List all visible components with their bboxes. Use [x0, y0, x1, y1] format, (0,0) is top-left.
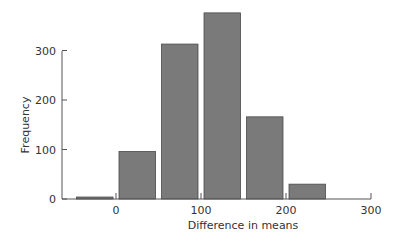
y-axis-title: Frequency — [19, 96, 32, 153]
y-tick-label: 200 — [35, 94, 56, 107]
x-tick-label: 0 — [113, 204, 120, 217]
histogram-bar — [162, 44, 199, 199]
histogram-bar — [247, 117, 284, 199]
histogram-bar — [119, 151, 156, 199]
x-tick-label: 100 — [191, 204, 212, 217]
x-axis-title: Difference in means — [188, 219, 299, 232]
x-tick-label: 300 — [361, 204, 382, 217]
x-tick-label: 200 — [276, 204, 297, 217]
histogram-bar — [289, 184, 326, 199]
y-tick-label: 300 — [35, 45, 56, 58]
histogram-chart: 0100200300 0100200300 Difference in mean… — [0, 0, 396, 242]
histogram-bar — [204, 13, 241, 199]
y-tick-label: 100 — [35, 144, 56, 157]
histogram-bars — [77, 13, 326, 199]
y-tick-label: 0 — [49, 193, 56, 206]
